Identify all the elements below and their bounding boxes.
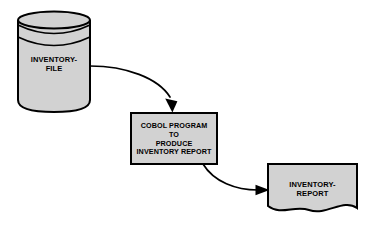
node-inventory-file	[18, 12, 90, 113]
system-flowchart-diagram: INVENTORY- FILE COBOL PROGRAM TO PRODUCE…	[0, 0, 372, 237]
node-inventory-report	[268, 164, 357, 211]
process-box-fill	[131, 113, 217, 164]
connector-file-to-program-line	[90, 66, 170, 97]
node-cobol-program	[131, 113, 217, 164]
flowchart-canvas	[0, 0, 372, 237]
connector-program-to-report	[203, 164, 270, 195]
connector-program-to-report-line	[203, 164, 258, 190]
connector-file-to-program	[90, 66, 177, 113]
connector-file-to-program-arrowhead	[165, 98, 177, 112]
document-shape-fill	[268, 164, 357, 211]
